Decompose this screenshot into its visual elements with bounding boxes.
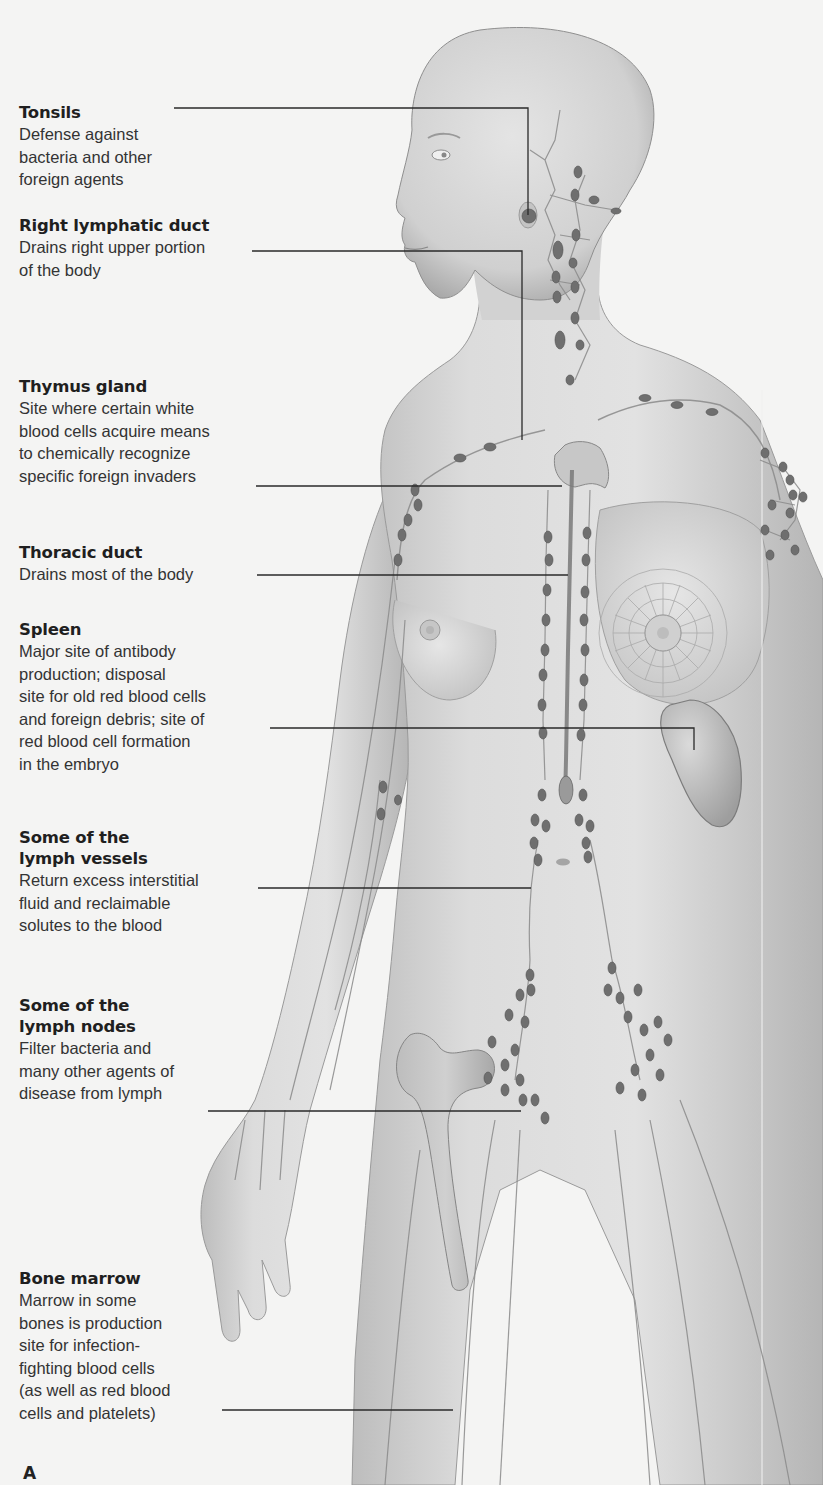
label-title: Thymus gland xyxy=(19,376,299,397)
label-thoracic-duct: Thoracic duct Drains most of the body xyxy=(19,542,299,586)
label-description: Drains right upper portion of the body xyxy=(19,236,299,281)
label-title: Some of the lymph vessels xyxy=(19,827,299,869)
label-description: Marrow in some bones is production site … xyxy=(19,1289,299,1424)
label-description: Site where certain white blood cells acq… xyxy=(19,397,299,487)
label-description: Defense against bacteria and other forei… xyxy=(19,123,299,191)
label-title: Some of the lymph nodes xyxy=(19,995,299,1037)
label-title: Bone marrow xyxy=(19,1268,299,1289)
label-description: Major site of antibody production; dispo… xyxy=(19,640,299,775)
label-description: Return excess interstitial fluid and rec… xyxy=(19,869,299,937)
label-bone-marrow: Bone marrow Marrow in some bones is prod… xyxy=(19,1268,299,1424)
label-thymus-gland: Thymus gland Site where certain white bl… xyxy=(19,376,299,487)
label-lymph-vessels: Some of the lymph vessels Return excess … xyxy=(19,827,299,937)
label-title: Right lymphatic duct xyxy=(19,215,299,236)
thymus-organ xyxy=(554,442,608,488)
label-title: Tonsils xyxy=(19,102,299,123)
label-title: Spleen xyxy=(19,619,299,640)
label-spleen: Spleen Major site of antibody production… xyxy=(19,619,299,775)
label-lymph-nodes: Some of the lymph nodes Filter bacteria … xyxy=(19,995,299,1105)
label-description: Drains most of the body xyxy=(19,563,299,586)
label-description: Filter bacteria and many other agents of… xyxy=(19,1037,299,1105)
label-title: Thoracic duct xyxy=(19,542,299,563)
panel-letter: A xyxy=(23,1463,36,1483)
label-tonsils: Tonsils Defense against bacteria and oth… xyxy=(19,102,299,191)
label-right-lymphatic-duct: Right lymphatic duct Drains right upper … xyxy=(19,215,299,281)
